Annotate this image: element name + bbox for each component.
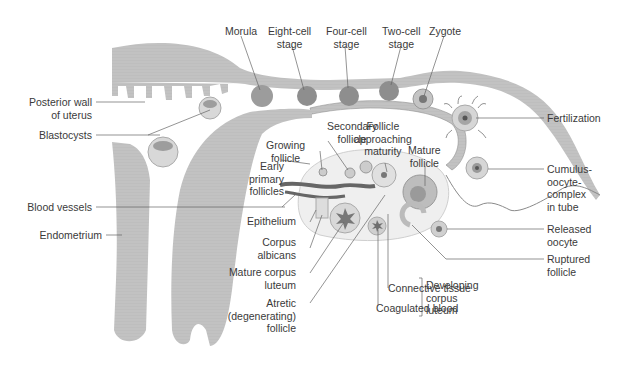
label-early-primary-follicles: Earlyprimaryfollicles bbox=[246, 160, 284, 198]
label-ruptured-follicle: Rupturedfollicle bbox=[547, 253, 590, 278]
label-fertilization: Fertilization bbox=[547, 112, 601, 125]
label-follicle-approaching-maturity: Follicleapproachingmaturity bbox=[354, 120, 412, 158]
label-four-cell-stage: Four-cellstage bbox=[326, 25, 367, 50]
label-posterior-wall-of-uterus: Posterior wallof uterus bbox=[28, 96, 92, 121]
ovarian-cycle-diagram bbox=[0, 0, 623, 370]
label-blood-vessels: Blood vessels bbox=[20, 201, 92, 214]
label-epithelium: Epithelium bbox=[236, 215, 296, 228]
label-mature-follicle: Maturefollicle bbox=[408, 144, 441, 169]
cumulus-oocyte-complex bbox=[466, 157, 488, 179]
label-released-oocyte: Releasedoocyte bbox=[547, 223, 591, 248]
label-two-cell-stage: Two-cellstage bbox=[382, 25, 421, 50]
label-endometrium: Endometrium bbox=[20, 229, 102, 242]
label-mature-corpus-luteum: Mature corpusluteum bbox=[216, 266, 296, 291]
label-morula: Morula bbox=[225, 25, 257, 38]
label-atretic-follicle: Atretic(degenerating)follicle bbox=[216, 297, 296, 335]
label-developing-corpus-luteum: Developingcorpusluteum bbox=[426, 279, 479, 317]
label-zygote: Zygote bbox=[429, 25, 461, 38]
label-cumulus-oocyte-complex: Cumulus-oocyte-complexin tube bbox=[547, 163, 592, 213]
label-blastocysts: Blastocysts bbox=[28, 129, 92, 142]
label-corpus-albicans: Corpusalbicans bbox=[236, 236, 296, 261]
label-eight-cell-stage: Eight-cellstage bbox=[268, 25, 311, 50]
